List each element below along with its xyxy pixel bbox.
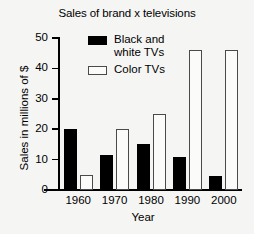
chart-title: Sales of brand x televisions — [0, 7, 254, 19]
y-axis-tick-label: 10 — [18, 154, 48, 166]
y-axis-tick-label: 0 — [18, 184, 48, 196]
bar — [100, 155, 113, 190]
bar — [80, 175, 93, 190]
legend-swatch-color-icon — [88, 66, 107, 75]
y-axis-tick-label: 50 — [18, 32, 48, 44]
bar — [116, 129, 129, 190]
bar — [137, 144, 150, 190]
legend-item-color: Color TVs — [88, 63, 198, 76]
y-axis-tick-label: 30 — [18, 93, 48, 105]
legend-label-black-white: Black and white TVs — [114, 33, 165, 58]
bar — [173, 157, 186, 190]
y-axis-tick-label: 20 — [18, 123, 48, 135]
bar — [153, 114, 166, 190]
bar — [209, 176, 222, 190]
chart-figure: Sales of brand x televisions Sales in mi… — [0, 0, 254, 234]
legend-label-color: Color TVs — [114, 63, 165, 76]
bar — [64, 129, 77, 190]
chart-legend: Black and white TVs Color TVs — [88, 33, 198, 81]
bar — [225, 50, 238, 190]
x-axis-label: Year — [44, 211, 242, 223]
legend-swatch-black-white-icon — [88, 36, 107, 45]
x-axis-tick-label: 2000 — [202, 194, 246, 206]
legend-item-black-white: Black and white TVs — [88, 33, 198, 58]
y-axis-tick-label: 40 — [18, 62, 48, 74]
